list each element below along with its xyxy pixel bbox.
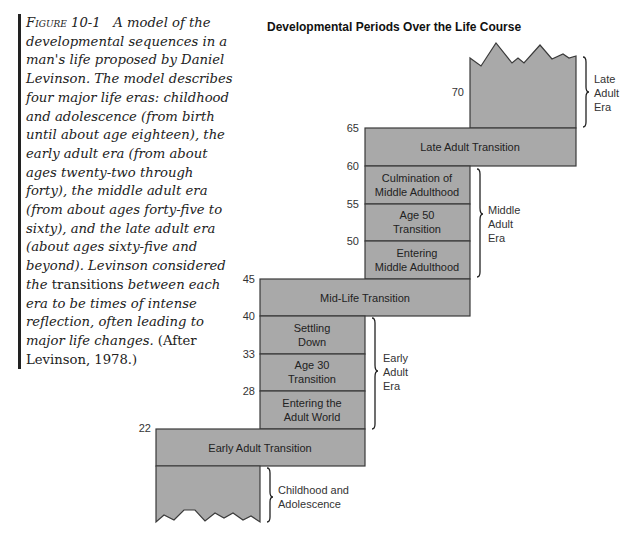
age-label-22: 22 <box>139 422 151 434</box>
entering-middle-label-line1: Entering <box>397 247 438 259</box>
late-adult-transition-label: Late Adult Transition <box>420 141 520 153</box>
culmination-label-line1: Culmination of <box>382 172 453 184</box>
late-adult-era-label-line3: Era <box>594 101 612 113</box>
childhood-block <box>156 466 260 522</box>
age-label-40: 40 <box>243 310 255 322</box>
childhood-era-brace <box>267 468 273 522</box>
middle-adult-era-label-line3: Era <box>488 232 506 244</box>
age-50-label-line2: Transition <box>393 223 441 235</box>
middle-adult-era-label-line2: Adult <box>488 218 513 230</box>
life-course-diagram: 22 28 33 40 45 50 55 60 65 70 Late Adult… <box>0 0 644 551</box>
culmination-label-line2: Middle Adulthood <box>375 186 459 198</box>
late-adult-era-label-line1: Late <box>594 73 615 85</box>
early-adult-era-brace <box>372 318 378 429</box>
middle-adult-era-label-line1: Middle <box>488 204 520 216</box>
middle-adult-era-brace <box>477 169 483 277</box>
early-adult-era-label-line1: Early <box>383 352 409 364</box>
age-label-60: 60 <box>347 160 359 172</box>
early-adult-era-label-line3: Era <box>383 380 401 392</box>
entering-adult-world-label-line2: Adult World <box>284 411 341 423</box>
settling-down-label-line1: Settling <box>294 322 331 334</box>
late-adult-era-label-line2: Adult <box>594 87 619 99</box>
entering-middle-label-line2: Middle Adulthood <box>375 261 459 273</box>
childhood-era-label-line1: Childhood and <box>278 484 349 496</box>
mid-life-transition-label: Mid-Life Transition <box>320 292 410 304</box>
late-adult-era-block <box>470 43 576 128</box>
age-30-label-line1: Age 30 <box>295 359 330 371</box>
age-label-28: 28 <box>243 385 255 397</box>
age-50-label-line1: Age 50 <box>400 209 435 221</box>
age-label-55: 55 <box>347 198 359 210</box>
settling-down-label-line2: Down <box>298 336 326 348</box>
age-30-label-line2: Transition <box>288 373 336 385</box>
late-adult-era-brace <box>583 57 589 127</box>
age-label-70: 70 <box>452 86 464 98</box>
childhood-era-label-line2: Adolescence <box>278 498 341 510</box>
entering-adult-world-label-line1: Entering the <box>282 397 341 409</box>
age-label-50: 50 <box>347 235 359 247</box>
age-label-45: 45 <box>243 273 255 285</box>
age-label-33: 33 <box>243 348 255 360</box>
age-label-65: 65 <box>347 122 359 134</box>
early-adult-era-label-line2: Adult <box>383 366 408 378</box>
early-adult-transition-label: Early Adult Transition <box>208 442 311 454</box>
